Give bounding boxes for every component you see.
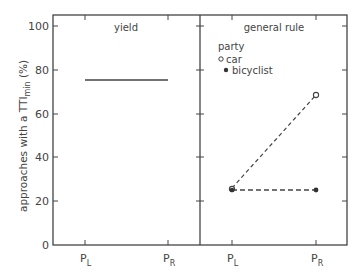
y-tick-80: 80 — [35, 64, 49, 77]
y-tick-100: 100 — [28, 20, 49, 33]
bicyclist-point-pl — [230, 188, 235, 193]
x-label-pl-2: PL — [227, 252, 239, 268]
x-label-pr-2: PR — [311, 252, 324, 268]
x-tick-labels: PL PR PL PR — [80, 252, 324, 268]
y-tick-0: 0 — [42, 239, 49, 252]
legend-car: car — [226, 54, 243, 65]
y-tick-60: 60 — [35, 108, 49, 121]
legend-title: party — [218, 41, 245, 52]
x-label-pr-1: PR — [163, 252, 176, 268]
legend-filled-circle-icon — [224, 68, 228, 72]
x-label-pl-1: PL — [80, 252, 92, 268]
legend-bicyclist: bicyclist — [232, 65, 273, 76]
legend: party car bicyclist — [218, 41, 273, 76]
car-point-pr — [313, 92, 318, 97]
bicyclist-point-pr — [314, 188, 319, 193]
chart: 0 20 40 60 80 100 approaches with a TTIm… — [0, 0, 362, 274]
y-tick-40: 40 — [35, 151, 49, 164]
y-axis-label: approaches with a TTImin (%) — [17, 60, 32, 212]
legend-open-circle-icon — [219, 57, 223, 61]
car-line — [232, 95, 316, 188]
panel-title-yield: yield — [114, 22, 138, 33]
y-tick-20: 20 — [35, 195, 49, 208]
panel-title-general-rule: general rule — [244, 22, 305, 33]
y-tick-labels: 0 20 40 60 80 100 — [28, 20, 49, 252]
